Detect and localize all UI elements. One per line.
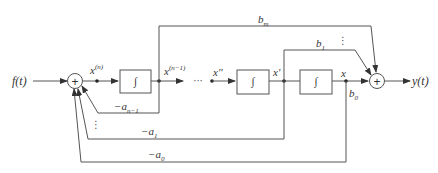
plus-icon: + [373,75,380,89]
input-summer: + [68,74,83,89]
x2-label: x'' [212,66,223,78]
plus-icon: + [71,75,78,89]
chain-ellipsis: ··· [193,75,203,86]
xn-node [95,79,99,83]
integrator-3: ∫ [300,70,332,94]
integrator-2: ∫ [237,70,269,94]
output-label: y(t) [411,74,429,88]
xn-label: x(n) [89,63,104,76]
a0-label: −a0 [148,148,165,163]
input-label: f(t) [12,74,27,88]
integrator-1: ∫ [120,70,151,93]
b0-label: b0 [349,87,359,102]
a1-label: −a1 [141,125,157,140]
x0-label: x [340,67,346,79]
feedback-vdots: ⋮ [91,119,101,130]
x1-label: x' [272,66,281,78]
block-diagram: f(t) + x(n) ∫ x(n−1) ··· x'' ∫ x' ∫ x b0 [0,0,438,173]
xn1-label: x(n−1) [163,64,186,77]
feedforward-vdots: ⋮ [338,35,348,46]
output-summer: + [370,74,385,89]
